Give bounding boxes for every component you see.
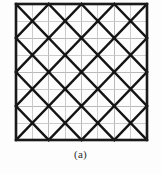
figure-panel: (a): [0, 0, 161, 174]
figure-caption: (a): [0, 148, 161, 160]
